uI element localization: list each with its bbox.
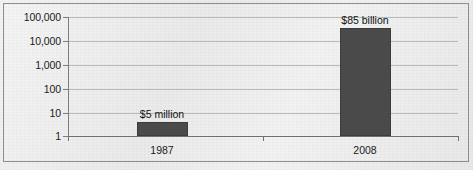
x-tick-label-1987: 1987 bbox=[117, 144, 207, 156]
y-tick-label-10: 10 bbox=[1, 108, 61, 119]
y-tick-label-100000: 100,000 bbox=[1, 12, 61, 23]
x-tick-start bbox=[68, 137, 69, 141]
y-tick-label-1: 1 bbox=[1, 131, 61, 142]
y-tick-label-1000: 1,000 bbox=[1, 60, 61, 71]
bar-2008 bbox=[340, 28, 391, 136]
y-tick-10 bbox=[63, 113, 68, 114]
y-tick-10000 bbox=[63, 41, 68, 42]
x-tick-mid bbox=[263, 137, 264, 141]
chart-figure: 100,000 10,000 1,000 100 10 1 $5 million… bbox=[0, 0, 473, 170]
bar-1987 bbox=[137, 122, 188, 136]
gridline-1000 bbox=[68, 65, 458, 66]
y-tick-label-100: 100 bbox=[1, 84, 61, 95]
y-axis-line bbox=[68, 17, 69, 137]
y-tick-100 bbox=[63, 89, 68, 90]
bar-label-2008: $85 billion bbox=[310, 14, 420, 26]
bar-label-1987: $5 million bbox=[107, 108, 217, 120]
y-tick-1000 bbox=[63, 65, 68, 66]
y-axis-tick-labels: 100,000 10,000 1,000 100 10 1 bbox=[0, 0, 61, 170]
x-tick-end bbox=[458, 137, 459, 141]
gridline-10000 bbox=[68, 41, 458, 42]
gridline-100 bbox=[68, 89, 458, 90]
x-tick-label-2008: 2008 bbox=[320, 144, 410, 156]
y-tick-label-10000: 10,000 bbox=[1, 36, 61, 47]
y-tick-100000 bbox=[63, 17, 68, 18]
